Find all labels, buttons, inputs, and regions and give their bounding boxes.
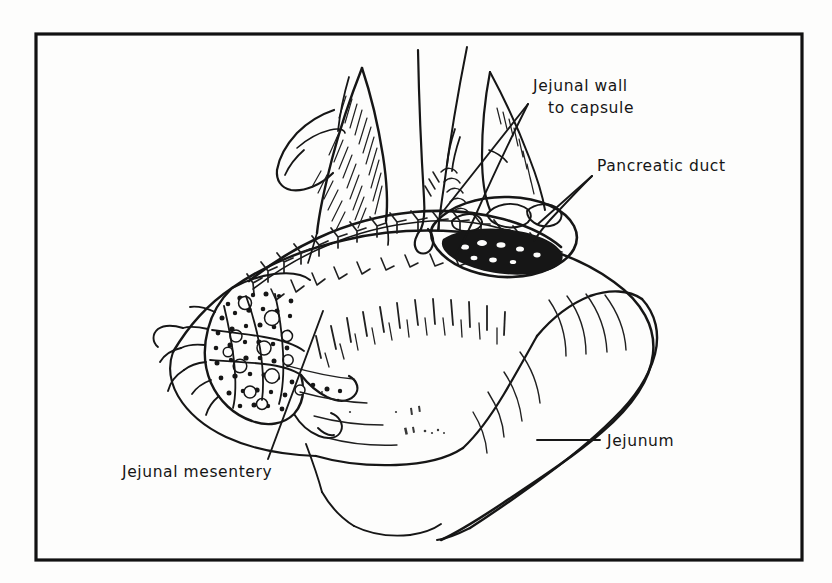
label-jejunal-wall-to-capsule-line2: to capsule (548, 99, 634, 117)
label-jejunal-mesentery: Jejunal mesentery (121, 463, 272, 481)
figure-root: Jejunal wall to capsule Pancreatic duct … (0, 0, 832, 583)
label-jejunum: Jejunum (606, 432, 674, 450)
surgical-illustration-svg: Jejunal wall to capsule Pancreatic duct … (0, 0, 832, 583)
label-jejunal-wall-to-capsule-line1: Jejunal wall (532, 77, 628, 95)
page-background (0, 0, 832, 583)
label-pancreatic-duct: Pancreatic duct (597, 157, 726, 175)
